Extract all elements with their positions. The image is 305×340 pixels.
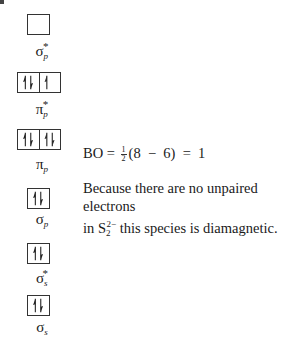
paired-electrons-icon xyxy=(28,189,49,208)
orbital-box-paired xyxy=(28,296,49,315)
orbital-pi-p-star xyxy=(17,72,61,93)
paired-electrons-icon xyxy=(18,130,39,149)
bond-order-prefix: BO = xyxy=(83,145,115,161)
fraction-denominator: 2 xyxy=(121,155,127,163)
label-sigma-p-star: σp* xyxy=(27,40,57,61)
orbital-subscript: p xyxy=(44,164,49,174)
orbital-superscript: * xyxy=(43,98,49,110)
explanation-line-2-end: this species is diamagnetic. xyxy=(116,220,277,236)
orbital-subscript: p xyxy=(43,109,48,119)
paired-electrons-icon xyxy=(28,244,49,263)
orbital-subscript: s xyxy=(44,278,48,288)
orbital-boxes xyxy=(27,188,50,209)
species-charge: 2− xyxy=(106,219,116,229)
orbital-box-paired xyxy=(28,244,49,263)
bond-order-equation: BO = 12(8 − 6) = 1 xyxy=(83,145,205,163)
up-electron-icon xyxy=(40,73,60,92)
orbital-subscript: s xyxy=(44,327,48,337)
species-subscript: 2 xyxy=(106,228,111,238)
orbital-subscript: p xyxy=(44,219,49,229)
orbital-box-paired xyxy=(18,73,39,92)
orbital-box-empty xyxy=(28,15,49,34)
orbital-sigma-s-star xyxy=(27,243,50,264)
orbital-sigma-p-star xyxy=(27,14,50,35)
orbital-box-paired xyxy=(39,130,60,149)
label-pi-p-star: πp* xyxy=(27,98,57,119)
orbital-pi-p xyxy=(17,129,61,150)
orbital-symbol: π xyxy=(36,156,44,172)
label-sigma-s-star: σs* xyxy=(27,267,57,288)
paired-electrons-icon xyxy=(18,73,39,92)
orbital-boxes xyxy=(27,14,50,35)
orbital-sigma-s xyxy=(27,295,50,316)
fraction-one-half: 12 xyxy=(121,146,127,163)
orbital-box-paired xyxy=(18,130,39,149)
orbital-superscript: * xyxy=(43,40,49,52)
orbital-box-single xyxy=(39,73,60,92)
label-sigma-p: σp xyxy=(27,211,57,229)
orbital-boxes xyxy=(17,129,61,150)
orbital-boxes xyxy=(27,243,50,264)
label-sigma-s: σs xyxy=(27,319,57,337)
orbital-sigma-p xyxy=(27,188,50,209)
orbital-symbol: σ xyxy=(36,211,44,227)
orbital-boxes xyxy=(27,295,50,316)
label-pi-p: πp xyxy=(27,156,57,174)
paired-electrons-icon xyxy=(28,296,49,315)
orbital-boxes xyxy=(17,72,61,93)
explanation-line-2-start: in S xyxy=(83,220,106,236)
explanation-line-1: Because there are no unpaired electrons xyxy=(83,180,258,214)
bond-order-expression: (8 − 6) = 1 xyxy=(129,145,206,161)
corner-mark xyxy=(0,0,4,4)
orbital-subscript: p xyxy=(44,51,49,61)
paired-electrons-icon xyxy=(40,130,60,149)
magnetism-explanation: Because there are no unpaired electrons … xyxy=(83,179,303,242)
orbital-box-paired xyxy=(28,189,49,208)
orbital-superscript: * xyxy=(43,267,49,279)
